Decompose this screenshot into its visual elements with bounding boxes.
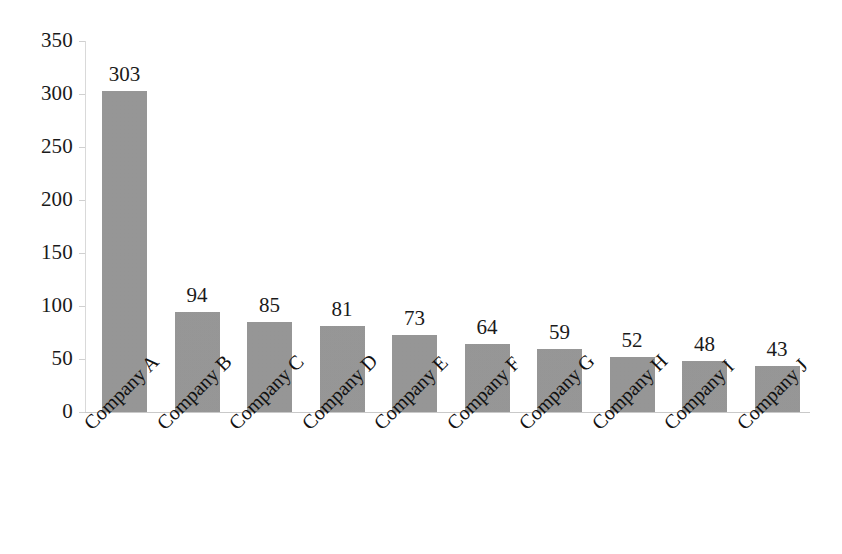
y-axis-tick-label: 50 — [15, 348, 73, 369]
y-axis-tick-label: 200 — [15, 189, 73, 210]
bar-value-label: 73 — [392, 308, 437, 329]
y-axis-tick-label: 300 — [15, 83, 73, 104]
bar-value-label: 303 — [102, 64, 147, 85]
bar-chart: 050100150200250300350 303948581736459524… — [0, 0, 842, 554]
bar-value-label: 64 — [465, 317, 510, 338]
bar-value-label: 81 — [320, 299, 365, 320]
y-axis-tick-label: 150 — [15, 242, 73, 263]
plot-area: 303948581736459524843 — [85, 41, 810, 412]
y-axis-tick-label: 100 — [15, 295, 73, 316]
y-axis-tick-label: 350 — [15, 30, 73, 51]
bar-value-label: 59 — [537, 322, 582, 343]
bar-value-label: 52 — [610, 330, 655, 351]
bar-value-label: 85 — [247, 295, 292, 316]
bar-value-label: 94 — [175, 285, 220, 306]
y-axis-tick-label: 250 — [15, 136, 73, 157]
y-axis-tick-label: 0 — [15, 401, 73, 422]
bar-value-label: 48 — [682, 334, 727, 355]
